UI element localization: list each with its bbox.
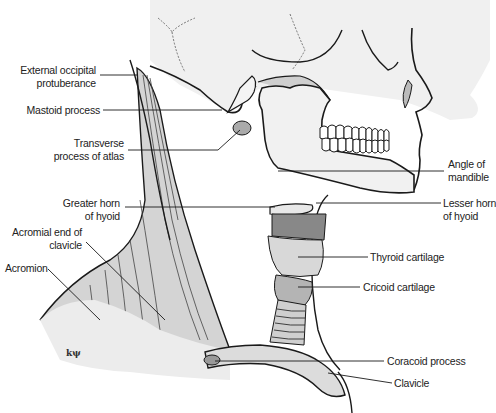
label-angle-of-mandible: Angle of mandible <box>448 158 489 184</box>
label-line: Angle of <box>448 158 489 171</box>
label-line: Coracoid process <box>387 355 466 368</box>
label-line: of hyoid <box>40 210 120 223</box>
artist-signature: kψ <box>66 348 81 358</box>
label-line: mandible <box>448 171 489 184</box>
label-cricoid-cartilage: Cricoid cartilage <box>363 281 435 294</box>
trachea <box>270 300 306 345</box>
label-clavicle: Clavicle <box>394 377 429 390</box>
label-external-occipital-protuberance: External occipital protuberance <box>20 64 96 90</box>
label-line: Mastoid process <box>10 104 100 117</box>
teeth <box>320 125 389 153</box>
label-line: Cricoid cartilage <box>363 281 435 294</box>
thyrohyoid-membrane <box>272 214 326 240</box>
label-lesser-horn-of-hyoid: Lesser horn of hyoid <box>443 197 496 223</box>
label-line: Acromial end of <box>10 226 82 239</box>
label-acromion: Acromion <box>5 262 48 275</box>
label-line: Transverse <box>40 137 124 150</box>
transverse-process-shape <box>233 121 251 135</box>
hyoid-bone <box>270 204 313 215</box>
label-line: Lesser horn <box>443 197 496 210</box>
label-coracoid-process: Coracoid process <box>387 355 466 368</box>
label-transverse-process-of-atlas: Transverse process of atlas <box>40 137 124 163</box>
coracoid-shape <box>204 355 220 365</box>
label-line: process of atlas <box>40 150 124 163</box>
label-greater-horn-of-hyoid: Greater horn of hyoid <box>40 197 120 223</box>
label-line: Thyroid cartilage <box>370 251 444 264</box>
label-line: Clavicle <box>394 377 429 390</box>
label-acromial-end-of-clavicle: Acromial end of clavicle <box>10 226 82 252</box>
label-line: External occipital <box>20 64 96 77</box>
label-mastoid-process: Mastoid process <box>10 104 100 117</box>
label-line: Greater horn <box>40 197 120 210</box>
thyroid-cartilage-shape <box>268 236 323 277</box>
label-line: Acromion <box>5 262 48 275</box>
label-line: clavicle <box>10 239 82 252</box>
label-line: protuberance <box>20 77 96 90</box>
label-line: of hyoid <box>443 210 496 223</box>
label-thyroid-cartilage: Thyroid cartilage <box>370 251 444 264</box>
